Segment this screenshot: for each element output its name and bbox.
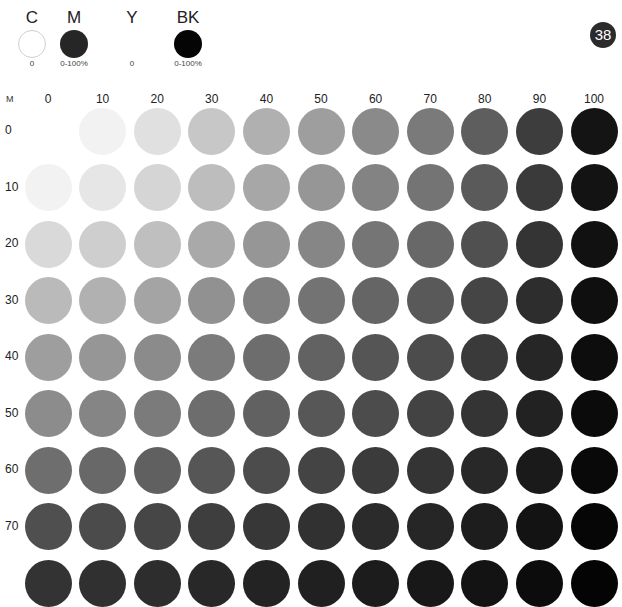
column-label: 40 (246, 92, 286, 106)
legend-range: 0-100% (44, 59, 104, 68)
tint-swatch-circle (352, 560, 399, 607)
tint-swatch-circle (352, 164, 399, 211)
tint-swatch-circle (516, 503, 563, 550)
row-label: 10 (5, 180, 25, 194)
tint-swatch-circle (25, 334, 72, 381)
tint-swatch-circle (407, 108, 454, 155)
tint-swatch-circle (352, 390, 399, 437)
row-axis-label: M (6, 94, 14, 104)
tint-swatch-circle (134, 334, 181, 381)
tint-swatch-circle (571, 277, 618, 324)
tint-swatch-circle (407, 560, 454, 607)
column-label: 90 (519, 92, 559, 106)
tint-swatch-circle (243, 503, 290, 550)
tint-swatch-circle (298, 560, 345, 607)
tint-swatch-circle (79, 390, 126, 437)
tint-swatch-circle (571, 334, 618, 381)
tint-swatch-circle (79, 164, 126, 211)
tint-swatch-circle (352, 447, 399, 494)
legend-item-y: Y0 (102, 8, 162, 68)
tint-swatch-circle (461, 390, 508, 437)
page-number-badge: 38 (590, 22, 616, 48)
legend-range: 0 (102, 59, 162, 68)
column-label: 80 (465, 92, 505, 106)
tint-swatch-circle (79, 334, 126, 381)
tint-swatch-circle (188, 164, 235, 211)
column-label: 10 (83, 92, 123, 106)
tint-swatch-circle (25, 277, 72, 324)
tint-swatch-circle (461, 108, 508, 155)
tint-swatch-circle (25, 164, 72, 211)
column-label: 30 (192, 92, 232, 106)
tint-swatch-circle (407, 221, 454, 268)
tint-swatch-circle (79, 447, 126, 494)
tint-swatch-circle (79, 503, 126, 550)
row-label: 60 (5, 462, 25, 476)
legend-letter: Y (102, 8, 162, 28)
row-label: 50 (5, 406, 25, 420)
tint-swatch-circle (571, 164, 618, 211)
tint-swatch-circle (79, 221, 126, 268)
legend-letter: BK (158, 8, 218, 28)
tint-swatch-circle (243, 221, 290, 268)
tint-swatch-circle (461, 447, 508, 494)
tint-swatch-circle (188, 390, 235, 437)
tint-swatch-circle (407, 503, 454, 550)
tint-swatch-circle (298, 277, 345, 324)
tint-swatch-circle (352, 334, 399, 381)
tint-swatch-circle (571, 221, 618, 268)
tint-swatch-circle (188, 447, 235, 494)
tint-swatch-circle (571, 108, 618, 155)
tint-swatch-circle (188, 334, 235, 381)
tint-swatch-circle (516, 108, 563, 155)
row-label: 30 (5, 293, 25, 307)
tint-swatch-circle (25, 390, 72, 437)
tint-swatch-circle (298, 447, 345, 494)
row-label: 40 (5, 349, 25, 363)
tint-swatch-circle (134, 277, 181, 324)
column-label: 100 (574, 92, 614, 106)
tint-swatch-circle (298, 334, 345, 381)
tint-swatch-circle (298, 390, 345, 437)
tint-swatch-circle (298, 503, 345, 550)
tint-swatch-circle (243, 334, 290, 381)
tint-swatch-circle (243, 560, 290, 607)
tint-swatch-circle (407, 277, 454, 324)
column-label: 20 (137, 92, 177, 106)
tint-swatch-circle (25, 221, 72, 268)
tint-swatch-circle (461, 334, 508, 381)
legend-swatch-circle-icon (174, 30, 202, 58)
tint-swatch-circle (79, 560, 126, 607)
tint-swatch-circle (243, 277, 290, 324)
tint-swatch-circle (516, 447, 563, 494)
tint-swatch-circle (25, 560, 72, 607)
tint-swatch-circle (461, 277, 508, 324)
tint-swatch-circle (243, 108, 290, 155)
column-label: 70 (410, 92, 450, 106)
tint-swatch-circle (352, 277, 399, 324)
tint-swatch-circle (461, 560, 508, 607)
tint-swatch-circle (25, 108, 72, 155)
legend-item-bk: BK0-100% (158, 8, 218, 68)
tint-swatch-circle (516, 390, 563, 437)
tint-swatch-circle (516, 560, 563, 607)
legend-letter: M (44, 8, 104, 28)
tint-swatch-circle (352, 221, 399, 268)
tint-swatch-circle (298, 108, 345, 155)
row-label: 20 (5, 236, 25, 250)
tint-swatch-circle (134, 390, 181, 437)
tint-swatch-circle (79, 108, 126, 155)
tint-swatch-circle (134, 560, 181, 607)
tint-swatch-circle (134, 108, 181, 155)
tint-swatch-circle (516, 221, 563, 268)
tint-swatch-circle (516, 277, 563, 324)
tint-swatch-circle (134, 164, 181, 211)
column-label: 60 (356, 92, 396, 106)
tint-swatch-circle (298, 221, 345, 268)
legend-swatch-circle-icon (60, 30, 88, 58)
tint-swatch-circle (571, 503, 618, 550)
row-label: 70 (5, 519, 25, 533)
tint-swatch-circle (188, 503, 235, 550)
tint-swatch-circle (243, 164, 290, 211)
tint-swatch-circle (134, 447, 181, 494)
